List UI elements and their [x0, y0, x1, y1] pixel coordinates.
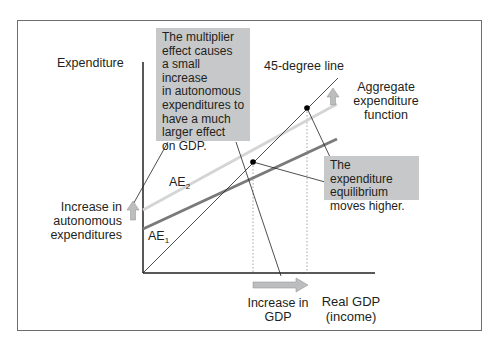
multiplier-note-line: larger effect — [162, 126, 246, 140]
autonomous-label-line3: expenditures — [40, 228, 122, 242]
equilibrium-note: The expenditure equilibrium moves higher… — [324, 156, 419, 200]
ae-function-label-line2: expenditure — [345, 94, 427, 108]
equilibrium-note-line: The expenditure — [330, 159, 415, 186]
equilibrium-point-2 — [304, 105, 310, 111]
equilibrium-point-1 — [250, 159, 256, 165]
autonomous-expenditures-label: Increase in autonomous expenditures — [40, 200, 122, 242]
autonomous-label-line1: Increase in — [40, 200, 122, 214]
multiplier-note: The multiplier effect causes a small inc… — [156, 28, 250, 141]
gdp-increase-label-line1: Increase in — [244, 296, 312, 310]
y-axis-label: Expenditure — [57, 56, 124, 70]
ae2-label: AE2 — [169, 175, 190, 191]
multiplier-note-line: a small increase — [162, 58, 246, 85]
ae1-label-text: AE — [148, 229, 165, 243]
gdp-increase-label-line2: GDP — [244, 310, 312, 324]
x-axis-label: Real GDP (income) — [320, 295, 382, 324]
equilibrium-note-line: moves higher. — [330, 200, 415, 214]
multiplier-note-line: The multiplier — [162, 31, 246, 45]
right-arrow-icon — [253, 278, 308, 292]
ae2-label-sub: 2 — [186, 182, 190, 191]
multiplier-note-line: have a much — [162, 113, 246, 127]
multiplier-note-line: effect causes — [162, 45, 246, 59]
ae1-label: AE1 — [148, 229, 169, 245]
equilibrium-note-line: equilibrium — [330, 186, 415, 200]
45-degree-line-label: 45-degree line — [264, 59, 344, 73]
ae-function-label: Aggregate expenditure function — [345, 80, 427, 122]
callout-leader-gdp — [236, 142, 281, 276]
gdp-increase-label: Increase in GDP — [244, 296, 312, 324]
x-axis-label-line2: (income) — [320, 310, 382, 325]
up-arrow-icon — [127, 201, 139, 220]
shift-up-arrow-icon — [327, 88, 339, 105]
multiplier-note-line: expenditures to — [162, 99, 246, 113]
ae2-label-text: AE — [169, 175, 186, 189]
autonomous-label-line2: autonomous — [40, 214, 122, 228]
x-axis-label-line1: Real GDP — [320, 295, 382, 310]
multiplier-note-line: in autonomous — [162, 85, 246, 99]
ae-function-label-line3: function — [345, 108, 427, 122]
ae-function-label-line1: Aggregate — [345, 80, 427, 94]
ae1-label-sub: 1 — [165, 236, 169, 245]
multiplier-note-line: on GDP. — [162, 140, 246, 154]
